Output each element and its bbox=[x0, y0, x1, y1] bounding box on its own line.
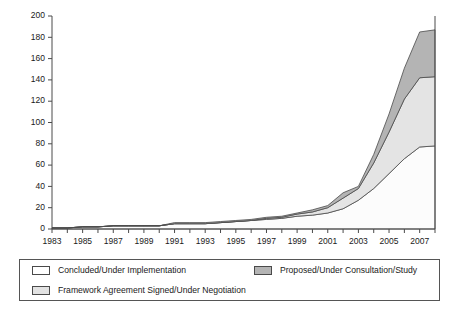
y-tick-label: 200 bbox=[31, 10, 45, 20]
chart-svg: 020406080100120140160180200 198319851987… bbox=[0, 0, 459, 250]
x-axis-ticks: 1983198519871989199119931995199719992001… bbox=[43, 229, 435, 246]
plot-area: 020406080100120140160180200 198319851987… bbox=[0, 0, 459, 250]
legend-swatch-concluded bbox=[32, 266, 50, 275]
x-tick-label: 1997 bbox=[257, 236, 276, 246]
legend-label-framework: Framework Agreement Signed/Under Negotia… bbox=[58, 285, 246, 295]
legend-label-proposed: Proposed/Under Consultation/Study bbox=[280, 265, 417, 275]
x-tick-label: 2007 bbox=[410, 236, 429, 246]
y-tick-label: 180 bbox=[31, 32, 45, 42]
x-tick-label: 1985 bbox=[73, 236, 92, 246]
y-tick-label: 40 bbox=[36, 181, 46, 191]
legend-entry-concluded[interactable]: Concluded/Under Implementation bbox=[32, 265, 254, 275]
stacked-area-chart: 020406080100120140160180200 198319851987… bbox=[0, 0, 459, 310]
legend-row-1: Concluded/Under Implementation Proposed/… bbox=[20, 260, 439, 280]
x-tick-label: 1999 bbox=[288, 236, 307, 246]
x-tick-label: 1991 bbox=[165, 236, 184, 246]
x-tick-label: 2003 bbox=[349, 236, 368, 246]
y-tick-label: 100 bbox=[31, 117, 45, 127]
legend-label-concluded: Concluded/Under Implementation bbox=[58, 265, 186, 275]
y-tick-label: 20 bbox=[36, 202, 46, 212]
y-tick-label: 60 bbox=[36, 159, 46, 169]
legend-swatch-framework bbox=[32, 286, 50, 295]
legend-swatch-proposed bbox=[254, 266, 272, 275]
y-tick-label: 140 bbox=[31, 74, 45, 84]
x-tick-label: 1987 bbox=[104, 236, 123, 246]
y-tick-label: 0 bbox=[40, 223, 45, 233]
x-tick-label: 2001 bbox=[318, 236, 337, 246]
y-tick-label: 120 bbox=[31, 95, 45, 105]
legend-row-2: Framework Agreement Signed/Under Negotia… bbox=[20, 280, 439, 300]
chart-legend: Concluded/Under Implementation Proposed/… bbox=[19, 259, 440, 301]
y-tick-label: 160 bbox=[31, 53, 45, 63]
x-tick-label: 1993 bbox=[196, 236, 215, 246]
x-tick-label: 1983 bbox=[43, 236, 62, 246]
x-tick-label: 1995 bbox=[226, 236, 245, 246]
y-tick-label: 80 bbox=[36, 138, 46, 148]
y-axis-ticks: 020406080100120140160180200 bbox=[31, 10, 52, 233]
series-layer bbox=[52, 30, 435, 229]
legend-entry-framework[interactable]: Framework Agreement Signed/Under Negotia… bbox=[32, 285, 254, 295]
x-tick-label: 1989 bbox=[134, 236, 153, 246]
legend-entry-proposed[interactable]: Proposed/Under Consultation/Study bbox=[254, 265, 417, 275]
x-tick-label: 2005 bbox=[380, 236, 399, 246]
